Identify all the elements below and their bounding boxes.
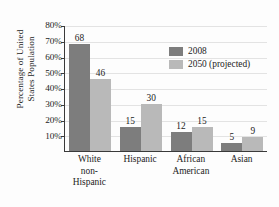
x-axis-label-line: American	[166, 166, 217, 178]
x-axis-category-labels: Whitenon-HispanicHispanicAfricanAmerican…	[64, 154, 267, 204]
legend: 2008 2050 (projected)	[169, 46, 250, 69]
y-axis-tick-label: 70%	[45, 37, 62, 46]
bar-group: 1215	[167, 26, 218, 151]
plot-area: 68461530121559 2008 2050 (projected)	[64, 26, 267, 152]
x-axis-label-line: White	[64, 154, 115, 166]
bar: 5	[221, 143, 242, 151]
x-axis-label-line: Asian	[216, 154, 267, 166]
legend-swatch-2008	[169, 47, 183, 56]
y-axis-tick-label: 20%	[45, 116, 62, 125]
bar-value-label: 12	[176, 121, 185, 131]
y-axis-tick-label: 30%	[45, 100, 62, 109]
x-axis-label-line: Hispanic	[115, 154, 166, 166]
bar-chart: Percentage of United States Population 1…	[0, 0, 279, 207]
bar-group: 59	[217, 26, 268, 151]
legend-label-2050: 2050 (projected)	[188, 59, 250, 69]
bar-value-label: 46	[96, 68, 105, 78]
x-axis-label: Hispanic	[115, 154, 166, 166]
bar-value-label: 30	[147, 93, 156, 103]
bar: 46	[90, 79, 111, 151]
y-axis-tick-labels: 10%20%30%40%50%60%70%80%	[30, 22, 62, 150]
y-axis-tick-label: 40%	[45, 84, 62, 93]
bar-group: 1530	[116, 26, 167, 151]
x-axis-label-line: Hispanic	[64, 177, 115, 189]
bar: 30	[141, 104, 162, 151]
bar-value-label: 68	[75, 33, 84, 43]
y-axis-tick-label: 80%	[45, 21, 62, 30]
legend-swatch-2050	[169, 60, 183, 69]
bar-group: 6846	[65, 26, 116, 151]
legend-label-2008: 2008	[188, 46, 207, 56]
y-axis-title-line-1: Percentage of United	[15, 30, 26, 109]
bar-value-label: 5	[229, 132, 234, 142]
x-axis-label: AfricanAmerican	[166, 154, 217, 177]
x-axis-label: Whitenon-Hispanic	[64, 154, 115, 189]
bar: 15	[192, 127, 213, 151]
bar-value-label: 15	[126, 116, 135, 126]
bar: 9	[242, 137, 263, 151]
bar: 15	[120, 127, 141, 151]
bar: 12	[171, 132, 192, 151]
y-axis-tick-label: 50%	[45, 69, 62, 78]
x-axis-label-line: African	[166, 154, 217, 166]
bar-value-label: 15	[197, 116, 206, 126]
y-axis-tick-label: 60%	[45, 53, 62, 62]
y-axis-tick-label: 10%	[45, 132, 62, 141]
bar: 68	[69, 44, 90, 151]
bar-value-label: 9	[250, 126, 255, 136]
legend-item-2008: 2008	[169, 46, 250, 56]
x-axis-label: Asian	[216, 154, 267, 166]
bars-layer: 68461530121559	[65, 26, 267, 151]
x-axis-label-line: non-	[64, 166, 115, 178]
legend-item-2050: 2050 (projected)	[169, 59, 250, 69]
